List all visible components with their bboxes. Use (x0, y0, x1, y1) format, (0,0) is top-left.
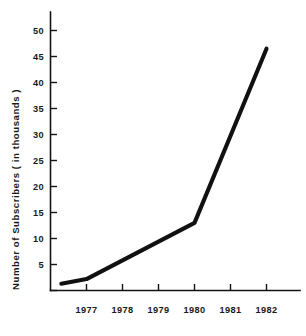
y-tick-label: 35 (33, 104, 44, 114)
y-tick-labels: 5 10 15 20 25 30 35 40 45 50 (33, 26, 44, 270)
x-tick-label: 1977 (76, 305, 98, 315)
y-tick-label: 15 (33, 208, 44, 218)
data-series-line (61, 49, 266, 284)
y-axis-title: Number of Subscribers ( in thousands ) (10, 89, 21, 290)
y-tick-label: 20 (33, 182, 44, 192)
x-tick-label: 1979 (148, 305, 170, 315)
x-tick-group (87, 284, 267, 291)
y-tick-label: 5 (39, 260, 44, 270)
x-tick-label: 1980 (184, 305, 206, 315)
x-tick-labels: 1977 1978 1979 1980 1981 1982 (76, 305, 278, 315)
x-tick-label: 1981 (220, 305, 242, 315)
y-tick-label: 30 (33, 130, 44, 140)
y-tick-group (51, 31, 58, 291)
y-tick-label: 45 (33, 52, 44, 62)
line-chart: Number of Subscribers ( in thousands ) 5… (0, 0, 306, 336)
y-tick-label: 25 (33, 156, 44, 166)
x-tick-label: 1982 (256, 305, 278, 315)
y-tick-label: 50 (33, 26, 44, 36)
x-tick-label: 1978 (112, 305, 134, 315)
y-tick-label: 10 (33, 234, 44, 244)
chart-canvas: Number of Subscribers ( in thousands ) 5… (0, 0, 306, 336)
y-tick-label: 40 (33, 78, 44, 88)
